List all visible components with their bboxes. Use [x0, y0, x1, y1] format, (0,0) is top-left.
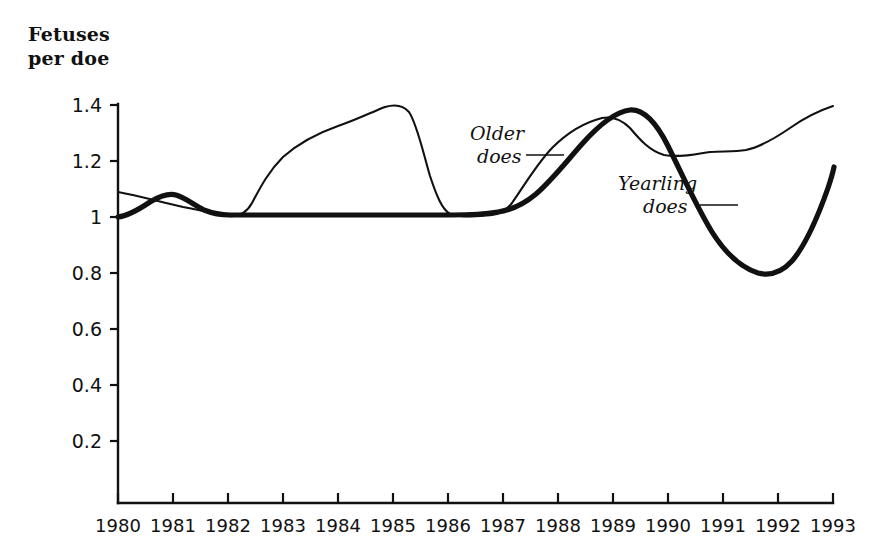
chart-svg: 1.4 1.2 1 0.8 0.6 0.4 0.2 19: [0, 0, 882, 557]
x-tick-label-1989: 1989: [590, 515, 636, 536]
x-tick-label-1980: 1980: [95, 515, 141, 536]
y-tick-label-0.4: 0.4: [72, 374, 102, 396]
annotation-yearling-does-line-1: Yearling: [618, 172, 697, 194]
x-tick-label-1991: 1991: [700, 515, 746, 536]
y-tick-label-0.8: 0.8: [72, 262, 102, 284]
y-tick-label-1.2: 1.2: [72, 150, 102, 172]
annotation-older-does-line-2: does: [477, 145, 522, 167]
x-tick-label-1981: 1981: [150, 515, 196, 536]
y-axis-tick-labels: 1.4 1.2 1 0.8 0.6 0.4 0.2: [72, 94, 102, 452]
y-tick-label-1: 1: [90, 206, 102, 228]
annotation-older-does-line-1: Older: [470, 122, 526, 144]
x-tick-label-1983: 1983: [260, 515, 306, 536]
x-tick-label-1990: 1990: [645, 515, 691, 536]
x-tick-label-1982: 1982: [205, 515, 251, 536]
y-tick-label-1.4: 1.4: [72, 94, 102, 116]
x-tick-label-1987: 1987: [480, 515, 526, 536]
x-tick-label-1993: 1993: [810, 515, 856, 536]
x-axis-tick-labels: 1980 1981 1982 1983 1984 1985 1986 1987 …: [95, 515, 856, 536]
x-axis-ticks: [118, 493, 833, 503]
y-tick-label-0.2: 0.2: [72, 430, 102, 452]
annotation-older-does: Older does: [470, 122, 564, 167]
x-tick-label-1988: 1988: [535, 515, 581, 536]
x-tick-label-1985: 1985: [370, 515, 416, 536]
x-tick-label-1984: 1984: [315, 515, 361, 536]
x-tick-label-1986: 1986: [425, 515, 471, 536]
x-tick-label-1992: 1992: [755, 515, 801, 536]
annotation-yearling-does-line-2: does: [643, 195, 688, 217]
y-tick-label-0.6: 0.6: [72, 318, 102, 340]
chart-figure: Fetusesper doe 1.4 1.2 1 0.8 0.6 0.4 0.2: [0, 0, 882, 557]
annotation-yearling-does: Yearling does: [618, 172, 738, 217]
